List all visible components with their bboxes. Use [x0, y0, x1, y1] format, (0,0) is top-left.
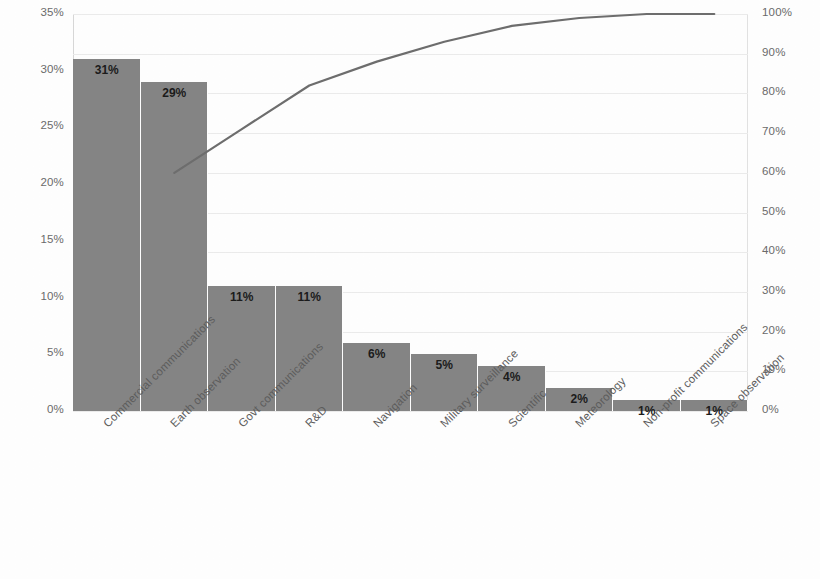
right-axis-tick-label: 30%	[762, 284, 786, 296]
right-axis-tick-label: 50%	[762, 205, 786, 217]
left-axis-tick-label: 15%	[8, 233, 64, 245]
right-axis-tick-label: 0%	[762, 403, 779, 415]
left-axis-tick-label: 20%	[8, 176, 64, 188]
gridline	[73, 14, 748, 15]
pareto-chart: 0%5%10%15%20%25%30%35% 0%10%20%30%40%50%…	[0, 0, 820, 579]
bar-value-label: 31%	[73, 63, 141, 77]
gridline	[73, 54, 748, 55]
left-axis-tick-label: 35%	[8, 6, 64, 18]
left-axis-tick-label: 25%	[8, 119, 64, 131]
left-axis-tick-label: 10%	[8, 290, 64, 302]
right-axis-tick-label: 80%	[762, 85, 786, 97]
bar	[73, 59, 141, 411]
left-axis-tick-label: 30%	[8, 63, 64, 75]
bar-value-label: 6%	[343, 347, 411, 361]
left-axis-tick-label: 0%	[8, 403, 64, 415]
right-axis-tick-label: 70%	[762, 125, 786, 137]
category-tick-label: Space observation	[708, 351, 786, 429]
right-axis-tick-label: 60%	[762, 165, 786, 177]
right-axis-tick-label: 90%	[762, 46, 786, 58]
bar-value-label: 11%	[276, 290, 344, 304]
right-axis-tick-label: 20%	[762, 324, 786, 336]
bar-value-label: 29%	[141, 86, 209, 100]
right-axis-tick-label: 40%	[762, 244, 786, 256]
right-axis-tick-label: 100%	[762, 6, 792, 18]
bar-value-label: 11%	[208, 290, 276, 304]
left-axis-tick-label: 5%	[8, 346, 64, 358]
bar-value-label: 5%	[411, 358, 479, 372]
